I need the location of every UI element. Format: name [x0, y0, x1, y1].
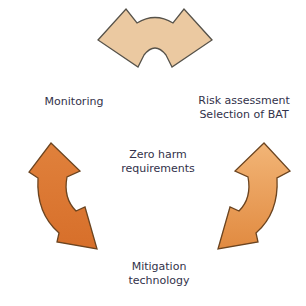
label-mitigation-technology: Mitigation technology — [104, 260, 214, 287]
right-double-curved-arrow-icon — [218, 143, 290, 249]
label-monitoring: Monitoring — [14, 95, 134, 109]
label-zero-harm-requirements: Zero harm requirements — [103, 148, 213, 175]
diagram-canvas: Monitoring Risk assessment Selection of … — [0, 0, 306, 306]
top-double-curved-arrow-icon — [98, 9, 212, 67]
left-double-curved-arrow-icon — [29, 143, 97, 249]
label-risk-assessment: Risk assessment Selection of BAT — [183, 94, 305, 121]
